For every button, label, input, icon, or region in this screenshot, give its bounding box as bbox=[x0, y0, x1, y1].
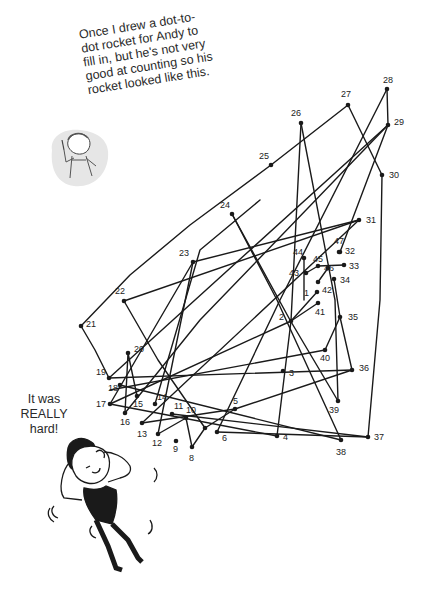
dot-label-38: 38 bbox=[336, 447, 346, 457]
dot-35 bbox=[338, 315, 343, 320]
dot-42 bbox=[316, 280, 321, 285]
dot-label-26: 26 bbox=[291, 108, 301, 118]
dot-label-36: 36 bbox=[359, 363, 369, 373]
dot-label-33: 33 bbox=[349, 261, 359, 271]
dot-label-1: 1 bbox=[304, 288, 309, 298]
dot-24 bbox=[230, 212, 235, 217]
dot-label-17: 17 bbox=[96, 399, 106, 409]
dot-label-9: 9 bbox=[173, 444, 178, 454]
dot-label-34: 34 bbox=[340, 275, 350, 285]
dot-14 bbox=[153, 402, 158, 407]
dot-41 bbox=[316, 301, 321, 306]
dot-label-8: 8 bbox=[189, 453, 194, 463]
dot-10 bbox=[184, 416, 189, 421]
dot-label-22: 22 bbox=[115, 286, 125, 296]
dot-20 bbox=[126, 351, 131, 356]
dot-22 bbox=[122, 299, 127, 304]
dot-label-42: 42 bbox=[322, 285, 332, 295]
dot-label-21: 21 bbox=[86, 319, 96, 329]
dot-label-46: 46 bbox=[324, 263, 334, 273]
dot-label-44: 44 bbox=[293, 247, 303, 257]
dot-label-27: 27 bbox=[341, 89, 351, 99]
dot-2 bbox=[289, 319, 294, 324]
dot-29 bbox=[386, 123, 391, 128]
dot-30 bbox=[380, 173, 385, 178]
dot-label-28: 28 bbox=[383, 75, 393, 85]
dot-5 bbox=[233, 407, 238, 412]
dot-label-11: 11 bbox=[174, 401, 183, 411]
dot-label-43: 43 bbox=[289, 268, 299, 278]
connecting-line bbox=[325, 317, 340, 350]
dot-16 bbox=[123, 411, 128, 416]
dot-1 bbox=[315, 290, 320, 295]
dot-17 bbox=[108, 402, 113, 407]
dot-8 bbox=[190, 445, 195, 450]
narrator-figure-icon bbox=[52, 130, 109, 186]
dot-label-39: 39 bbox=[329, 405, 339, 415]
connecting-line bbox=[271, 105, 348, 165]
dot-26 bbox=[299, 121, 304, 126]
dot-label-3: 3 bbox=[289, 368, 294, 378]
dot-label-5: 5 bbox=[233, 396, 238, 406]
connecting-line bbox=[109, 370, 352, 378]
dot-6 bbox=[215, 430, 220, 435]
dot-4 bbox=[275, 434, 280, 439]
dot-19 bbox=[107, 376, 112, 381]
dot-12 bbox=[156, 432, 161, 437]
connecting-line bbox=[110, 321, 291, 404]
dot-label-31: 31 bbox=[366, 215, 376, 225]
dot-label-47: 47 bbox=[334, 236, 344, 246]
dot-38 bbox=[339, 438, 344, 443]
dot-label-40: 40 bbox=[320, 353, 330, 363]
dot-label-45: 45 bbox=[313, 254, 323, 264]
dot-label-4: 4 bbox=[283, 432, 288, 442]
dot-label-37: 37 bbox=[374, 432, 384, 442]
dot-label-6: 6 bbox=[222, 433, 227, 443]
dot-25 bbox=[269, 163, 274, 168]
dot-39 bbox=[336, 399, 341, 404]
dot-15 bbox=[135, 394, 140, 399]
connecting-line bbox=[291, 123, 301, 321]
andy-figure-icon bbox=[48, 438, 157, 570]
dot-40 bbox=[323, 348, 328, 353]
dot-label-30: 30 bbox=[389, 170, 399, 180]
dot-11 bbox=[170, 412, 175, 417]
dot-label-10: 10 bbox=[186, 405, 196, 415]
connecting-line bbox=[387, 89, 388, 125]
dot-label-23: 23 bbox=[179, 248, 189, 258]
dot-label-2: 2 bbox=[279, 312, 284, 322]
dot-7 bbox=[203, 426, 208, 431]
dot-label-19: 19 bbox=[96, 367, 106, 377]
dot-label-35: 35 bbox=[348, 312, 358, 322]
dot-34 bbox=[332, 277, 337, 282]
connecting-line bbox=[277, 321, 291, 436]
dot-label-24: 24 bbox=[220, 200, 230, 210]
dot-28 bbox=[385, 87, 390, 92]
dot-18 bbox=[118, 383, 123, 388]
numbered-dots: 1234568910111213141516171819202122232425… bbox=[79, 75, 404, 463]
dot-9 bbox=[174, 439, 179, 444]
dot-43 bbox=[304, 271, 309, 276]
dot-37 bbox=[366, 435, 371, 440]
dot-label-20: 20 bbox=[134, 344, 144, 354]
connecting-line bbox=[81, 165, 271, 326]
dot-13 bbox=[140, 421, 145, 426]
dot-label-14: 14 bbox=[157, 392, 167, 402]
dot-label-32: 32 bbox=[345, 246, 355, 256]
dot-36 bbox=[350, 368, 355, 373]
connecting-line bbox=[348, 105, 382, 175]
dot-to-dot-drawing: 1234568910111213141516171819202122232425… bbox=[0, 0, 421, 600]
dot-label-18: 18 bbox=[108, 383, 118, 393]
dot-label-15: 15 bbox=[133, 399, 143, 409]
connecting-line bbox=[340, 317, 352, 370]
dot-47 bbox=[337, 250, 342, 255]
dot-21 bbox=[79, 324, 84, 329]
dot-33 bbox=[342, 263, 347, 268]
dot-label-41: 41 bbox=[315, 307, 325, 317]
dot-label-12: 12 bbox=[152, 438, 162, 448]
dot-label-13: 13 bbox=[137, 429, 147, 439]
dot-label-25: 25 bbox=[259, 151, 269, 161]
dot-label-29: 29 bbox=[394, 117, 404, 127]
dot-45 bbox=[316, 264, 321, 269]
connecting-lines bbox=[81, 89, 388, 447]
